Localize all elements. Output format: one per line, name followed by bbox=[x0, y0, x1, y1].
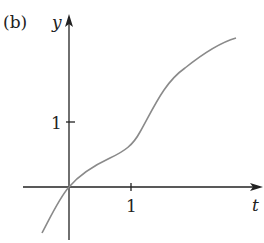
plot-area bbox=[0, 0, 264, 243]
curve bbox=[42, 38, 236, 233]
